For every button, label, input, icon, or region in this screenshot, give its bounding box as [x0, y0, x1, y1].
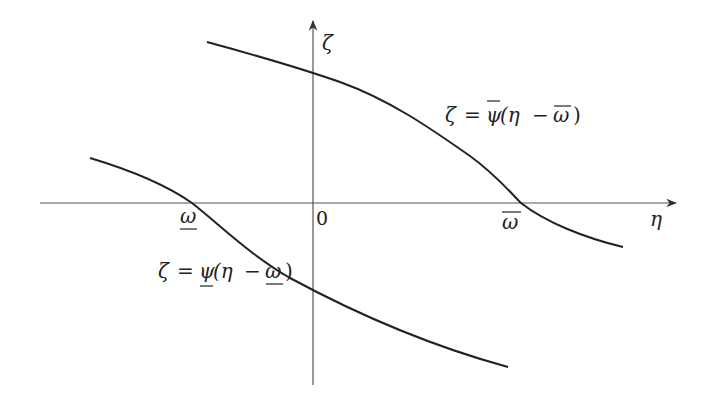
svg-text:ω: ω [553, 103, 569, 127]
zeta-axis-label: ζ [322, 31, 334, 55]
svg-text:−: − [532, 103, 549, 127]
eta-axis-label: η [650, 207, 662, 231]
svg-text:−: − [244, 259, 261, 283]
svg-text:): ) [573, 103, 581, 127]
lower-curve-formula: ζ = ψ (η − ω ) [158, 259, 293, 286]
svg-text:ζ: ζ [445, 103, 457, 127]
omega-lower-label: ω [180, 204, 197, 229]
omega-upper-label: ω [502, 210, 521, 234]
upper-curve-formula: ζ = ψ (η − ω ) [445, 101, 581, 127]
lower-curve [90, 158, 508, 367]
svg-text:ω: ω [265, 259, 281, 283]
svg-text:(η: (η [213, 259, 233, 283]
svg-text:ω: ω [502, 210, 518, 234]
svg-text:ζ: ζ [158, 259, 170, 283]
upper-curve [207, 42, 623, 247]
svg-text:=: = [177, 259, 194, 283]
svg-text:ω: ω [180, 204, 196, 228]
origin-label: 0 [316, 207, 328, 229]
svg-text:=: = [464, 103, 481, 127]
svg-text:(η: (η [500, 103, 520, 127]
phase-diagram: ζ η 0 ω ω ζ = ψ (η − ω ) ζ = ψ (η − ω ) [0, 0, 711, 409]
svg-text:): ) [285, 259, 293, 283]
